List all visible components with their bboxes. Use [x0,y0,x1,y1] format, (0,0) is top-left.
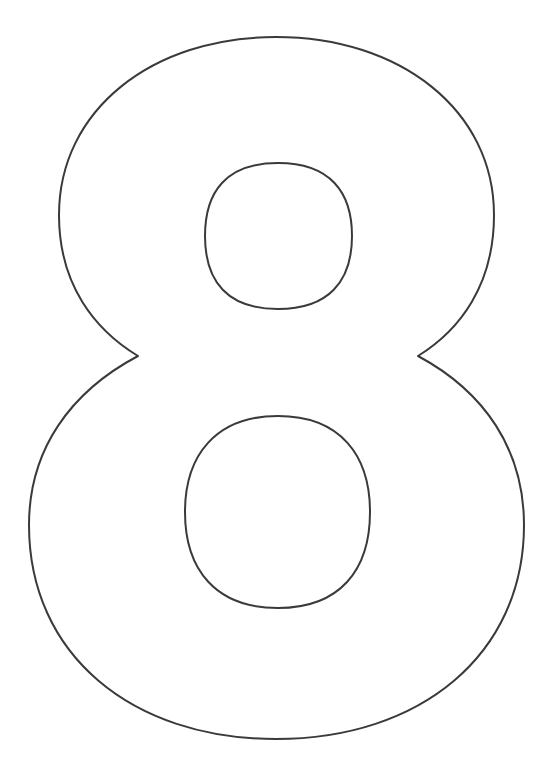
upper-counter [205,163,352,309]
number-eight-outline-icon [0,0,551,781]
coloring-page-canvas: 8 [0,0,551,781]
eight-outer-outline [29,37,524,739]
lower-counter [185,416,370,608]
